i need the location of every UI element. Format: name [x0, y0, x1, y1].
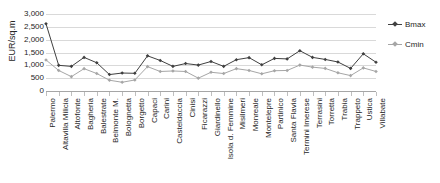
x-axis-tick	[84, 92, 85, 96]
series-line	[46, 24, 376, 75]
x-axis-tick-label: Terrasini	[316, 98, 324, 128]
data-point-marker	[209, 70, 213, 74]
x-axis-tick-label: Santa Flavia	[290, 98, 298, 142]
data-point-marker	[44, 22, 48, 26]
y-axis-title: EUR/sq.m	[7, 6, 17, 76]
data-point-marker	[260, 72, 264, 76]
line-chart: EUR/sq.m 05001,0001,5002,0002,5003,000 P…	[0, 0, 440, 183]
x-axis-tick-label: Borgetto	[138, 98, 146, 128]
data-point-marker	[336, 60, 340, 64]
data-point-marker	[95, 72, 99, 76]
x-axis-tick-label: Altavilla Milicia	[62, 98, 70, 150]
x-axis-tick-label: Giardinello	[214, 98, 222, 136]
x-axis-tick-label: Cinisi	[189, 98, 197, 118]
x-axis-tick	[97, 92, 98, 96]
x-axis-tick	[325, 92, 326, 96]
x-axis-tick	[236, 92, 237, 96]
x-axis-tick-label: Trabia	[341, 98, 349, 120]
x-axis-tick-label: Balestrate	[100, 98, 108, 134]
data-point-marker	[108, 78, 112, 82]
x-axis-tick-label: Casteldaccia	[176, 98, 184, 144]
series-bmax	[44, 22, 378, 76]
x-axis-tick-label: Bolognetta	[125, 98, 133, 136]
data-point-marker	[323, 58, 327, 62]
x-axis-tick-label: Isola d. Femmine	[227, 98, 235, 159]
x-axis-tick	[287, 92, 288, 96]
x-axis-tick	[71, 92, 72, 96]
x-axis-tick	[211, 92, 212, 96]
x-axis-tick-label: Ficarazzi	[201, 98, 209, 130]
data-point-marker	[209, 60, 213, 64]
y-axis-tick-label: 0	[40, 87, 44, 95]
data-point-marker	[158, 59, 162, 63]
x-axis-tick-label: Villabate	[379, 98, 387, 129]
x-axis-tick-label: Trappeto	[354, 98, 362, 130]
x-axis-tick	[313, 92, 314, 96]
data-point-marker	[120, 80, 124, 84]
data-point-marker	[247, 69, 251, 73]
x-axis-tick	[46, 92, 47, 96]
x-axis-tick-label: Bagheria	[87, 98, 95, 130]
x-axis-tick	[351, 92, 352, 96]
x-axis-tick	[135, 92, 136, 96]
x-axis-tick	[160, 92, 161, 96]
data-point-marker	[273, 69, 277, 73]
data-point-marker	[197, 63, 201, 67]
x-axis-tick-label: Monreale	[252, 98, 260, 131]
legend-marker-icon	[388, 19, 402, 29]
y-axis-tick-label: 2,000	[24, 36, 44, 44]
x-axis-ticks	[46, 92, 376, 96]
data-point-marker	[171, 65, 175, 69]
data-point-marker	[197, 76, 201, 80]
x-axis-tick-label: Torretta	[328, 98, 336, 125]
data-point-marker	[374, 70, 378, 74]
legend-label: Bmax	[405, 20, 425, 29]
x-axis-tick-label: Misilmeri	[239, 98, 247, 130]
x-axis-tick-label: Palermo	[49, 98, 57, 128]
data-point-marker	[120, 71, 124, 75]
data-point-marker	[222, 72, 226, 76]
x-axis-tick-label: Montelepre	[265, 98, 273, 138]
data-point-marker	[311, 65, 315, 69]
y-axis-tick-label: 1,500	[24, 49, 44, 57]
x-axis-tick	[122, 92, 123, 96]
x-axis-tick	[198, 92, 199, 96]
x-axis-tick	[173, 92, 174, 96]
y-axis-tick-label: 500	[31, 74, 44, 82]
x-axis-tick	[148, 92, 149, 96]
x-axis-tick-label: Capaci	[151, 98, 159, 123]
data-point-marker	[222, 65, 226, 69]
x-axis-tick	[249, 92, 250, 96]
legend-label: Cmin	[405, 40, 424, 49]
data-point-marker	[57, 64, 61, 68]
data-point-marker	[184, 62, 188, 66]
x-axis-tick	[186, 92, 187, 96]
x-axis-tick-label: Belmonte M.	[112, 98, 120, 143]
data-point-marker	[171, 69, 175, 73]
data-point-marker	[235, 58, 239, 62]
x-axis-tick-label: Termini Imerese	[303, 98, 311, 155]
data-point-marker	[298, 63, 302, 67]
data-point-marker	[285, 69, 289, 73]
x-axis-tick-label: Ustica	[366, 98, 374, 120]
y-axis-tick-label: 3,000	[24, 10, 44, 18]
data-point-marker	[273, 57, 277, 61]
x-axis-tick-label: Altofonte	[74, 98, 82, 130]
data-point-marker	[323, 67, 327, 71]
data-point-marker	[311, 56, 315, 60]
x-axis-tick	[376, 92, 377, 96]
x-axis-tick	[338, 92, 339, 96]
x-axis-tick	[300, 92, 301, 96]
chart-legend: Bmax Cmin	[388, 14, 440, 54]
x-axis-tick	[274, 92, 275, 96]
x-axis-tick	[224, 92, 225, 96]
legend-marker-icon	[388, 39, 402, 49]
x-axis-tick	[262, 92, 263, 96]
legend-item-bmax[interactable]: Bmax	[388, 14, 440, 34]
x-axis-tick	[109, 92, 110, 96]
data-point-marker	[158, 70, 162, 74]
legend-item-cmin[interactable]: Cmin	[388, 34, 440, 54]
data-point-marker	[336, 71, 340, 75]
x-axis-tick-labels: PalermoAltavilla MiliciaAltofonteBagheri…	[46, 98, 376, 183]
x-axis-tick	[59, 92, 60, 96]
